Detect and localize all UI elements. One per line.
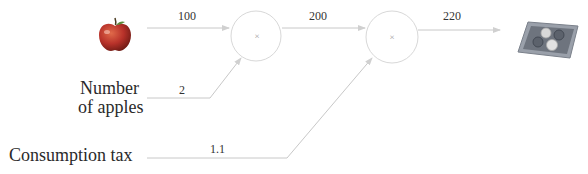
- number-of-apples-label-line1: Number: [80, 79, 143, 98]
- apple-price-value: 100: [178, 10, 196, 22]
- tax-value: 1.1: [210, 143, 225, 155]
- multiply-symbol-2: ×: [389, 33, 394, 42]
- computational-graph: 100 2 200 1.1 220 × × Number of apples C…: [0, 0, 588, 174]
- edge-tax-to-mul2: [147, 58, 372, 158]
- multiply-symbol-1: ×: [254, 32, 259, 41]
- number-of-apples-label: Number of apples: [80, 79, 143, 117]
- edge-count-to-mul1: [147, 58, 241, 98]
- money-tray-icon: [514, 18, 582, 62]
- consumption-tax-label: Consumption tax: [9, 146, 133, 165]
- apple-icon: [95, 14, 135, 54]
- number-of-apples-label-line2: of apples: [78, 98, 143, 117]
- apple-count-value: 2: [179, 84, 185, 96]
- intermediate-value: 200: [309, 10, 327, 22]
- output-value: 220: [443, 10, 461, 22]
